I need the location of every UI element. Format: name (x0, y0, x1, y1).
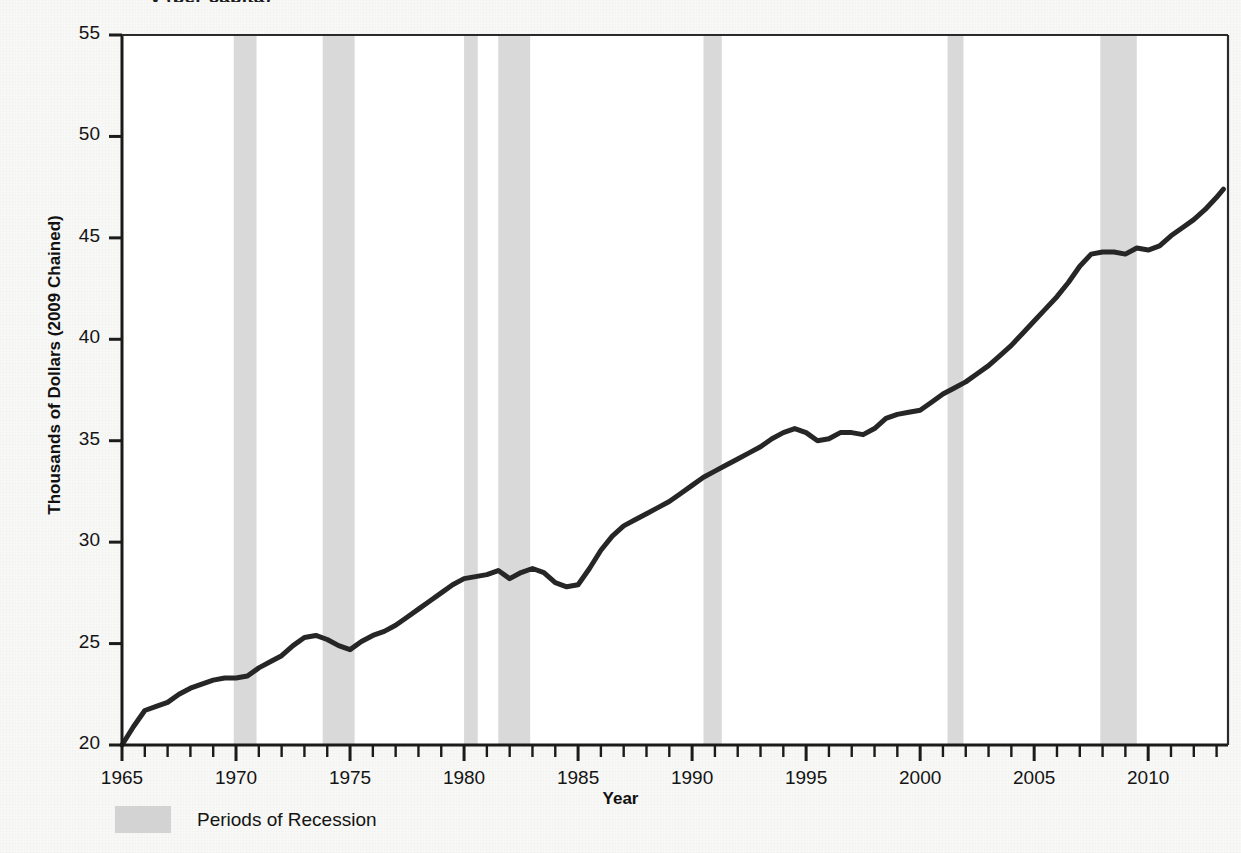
y-tick-label: 25 (32, 631, 100, 653)
recession-band (464, 35, 478, 745)
figure-container: y (per capita) Thousands of Dollars (200… (0, 0, 1241, 853)
y-tick-label: 30 (32, 529, 100, 551)
y-tick-label: 45 (32, 225, 100, 247)
y-tick-label: 35 (32, 428, 100, 450)
x-tick-label: 1985 (533, 767, 623, 789)
x-tick-label: 2005 (989, 767, 1079, 789)
y-tick-marks (109, 35, 122, 745)
y-tick-label: 50 (32, 123, 100, 145)
x-tick-label: 1995 (761, 767, 851, 789)
plot-background (122, 35, 1228, 745)
recession-band (498, 35, 530, 745)
recession-band (234, 35, 257, 745)
recession-band (704, 35, 722, 745)
x-tick-label: 2010 (1103, 767, 1193, 789)
y-tick-label: 40 (32, 326, 100, 348)
x-tick-marks (122, 745, 1217, 761)
plot-canvas (0, 0, 1241, 853)
legend-swatch-recession (115, 806, 171, 833)
x-tick-label: 1990 (647, 767, 737, 789)
x-tick-label: 1965 (77, 767, 167, 789)
x-tick-label: 1980 (419, 767, 509, 789)
x-tick-label: 1970 (191, 767, 281, 789)
recession-band (1100, 35, 1136, 745)
y-tick-label: 20 (32, 732, 100, 754)
y-tick-label: 55 (32, 22, 100, 44)
x-tick-label: 2000 (875, 767, 965, 789)
legend: Periods of Recession (115, 806, 377, 833)
x-tick-label: 1975 (305, 767, 395, 789)
legend-label-recession: Periods of Recession (197, 809, 377, 831)
